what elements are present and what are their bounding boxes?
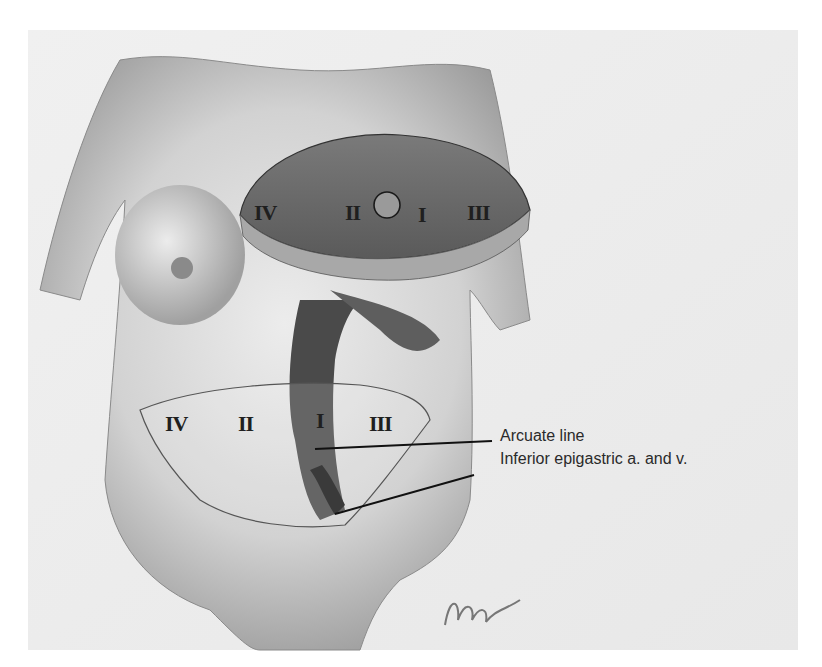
lower-zone-iv-label: IV [165,413,187,435]
lower-zone-i-label: I [316,410,324,432]
breast [115,185,245,325]
lower-zone-iii-label: III [369,413,392,435]
inferior-epigastric-callout: Inferior epigastric a. and v. [500,451,687,467]
nipple [171,257,193,279]
torso-illustration [0,0,822,667]
arcuate-line-callout: Arcuate line [500,428,585,444]
upper-zone-ii-label: II [345,202,360,224]
upper-zone-i-label: I [418,204,426,226]
lower-zone-ii-label: II [238,413,253,435]
umbilicus-marker [374,192,400,218]
upper-zone-iv-label: IV [254,202,276,224]
anatomy-figure: IV II I III IV II I III Arcuate line Inf… [0,0,822,667]
upper-zone-iii-label: III [467,202,490,224]
